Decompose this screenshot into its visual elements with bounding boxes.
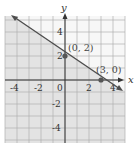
x-tick-label: -4 xyxy=(10,83,19,93)
point-label: (3, 0) xyxy=(96,64,122,75)
point-3-0 xyxy=(98,77,103,82)
y-tick-label: -4 xyxy=(52,123,61,133)
inequality-graph: x y -4 -2 0 2 4 4 2 -2 -4 (0, 2) (3, 0) xyxy=(0,0,136,148)
y-tick-label: -2 xyxy=(52,99,61,109)
point-label: (0, 2) xyxy=(68,42,94,53)
y-axis-label: y xyxy=(60,2,67,13)
x-axis-label: x xyxy=(128,74,134,85)
x-tick-label: 2 xyxy=(86,83,92,93)
x-tick-label: 0 xyxy=(57,83,63,93)
y-tick-label: 2 xyxy=(57,51,63,61)
point-0-2 xyxy=(62,53,67,58)
y-tick-label: 4 xyxy=(57,27,63,37)
x-tick-label: -2 xyxy=(34,83,43,93)
